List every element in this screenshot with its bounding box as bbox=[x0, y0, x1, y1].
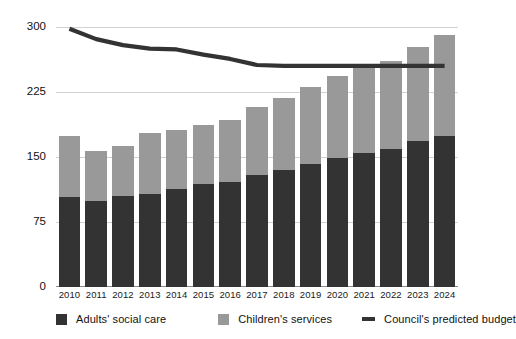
budget-line-series bbox=[56, 27, 458, 287]
legend-label: Children's services bbox=[238, 313, 332, 325]
x-axis: 2010201120122013201420152016201720182019… bbox=[56, 289, 458, 305]
legend-square-swatch-icon bbox=[56, 314, 67, 325]
legend-square-swatch-icon bbox=[218, 314, 229, 325]
y-tick-label: 75 bbox=[0, 216, 46, 227]
y-tick-label: 225 bbox=[0, 86, 46, 97]
x-tick-label-2023: 2023 bbox=[404, 289, 431, 300]
y-tick-label: 300 bbox=[0, 21, 46, 32]
legend-label: Adults' social care bbox=[76, 313, 166, 325]
x-tick-label-2015: 2015 bbox=[190, 289, 217, 300]
x-tick-label-2019: 2019 bbox=[297, 289, 324, 300]
chart-legend: Adults' social careChildren's servicesCo… bbox=[56, 309, 458, 329]
legend-line-swatch-icon bbox=[362, 317, 375, 321]
y-tick-label: 150 bbox=[0, 151, 46, 162]
legend-item-1[interactable]: Children's services bbox=[218, 313, 332, 325]
plot-area bbox=[56, 27, 458, 287]
x-tick-label-2010: 2010 bbox=[56, 289, 83, 300]
budget-line-path bbox=[69, 29, 444, 66]
y-tick-label: 0 bbox=[0, 281, 46, 292]
legend-item-0[interactable]: Adults' social care bbox=[56, 313, 166, 325]
x-tick-label-2017: 2017 bbox=[244, 289, 271, 300]
legend-item-2[interactable]: Council's predicted budget bbox=[362, 313, 516, 325]
x-tick-label-2024: 2024 bbox=[431, 289, 458, 300]
x-tick-label-2016: 2016 bbox=[217, 289, 244, 300]
x-tick-label-2013: 2013 bbox=[136, 289, 163, 300]
x-tick-label-2020: 2020 bbox=[324, 289, 351, 300]
x-tick-label-2021: 2021 bbox=[351, 289, 378, 300]
x-tick-label-2012: 2012 bbox=[110, 289, 137, 300]
legend-label: Council's predicted budget bbox=[384, 313, 516, 325]
x-tick-label-2014: 2014 bbox=[163, 289, 190, 300]
x-tick-label-2011: 2011 bbox=[83, 289, 110, 300]
x-tick-label-2018: 2018 bbox=[270, 289, 297, 300]
x-tick-label-2022: 2022 bbox=[378, 289, 405, 300]
